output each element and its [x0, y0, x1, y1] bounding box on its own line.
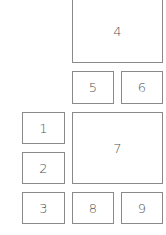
box-4: 4: [72, 0, 163, 63]
box-8: 8: [72, 192, 114, 224]
box-8-label: 8: [89, 201, 97, 216]
box-3-label: 3: [39, 201, 47, 216]
box-4-label: 4: [113, 24, 121, 39]
box-1: 1: [22, 112, 65, 144]
box-3: 3: [22, 192, 65, 224]
box-2-label: 2: [39, 161, 47, 176]
box-5-label: 5: [89, 80, 97, 95]
box-5: 5: [72, 71, 114, 104]
box-6: 6: [121, 71, 163, 104]
box-6-label: 6: [138, 80, 146, 95]
box-7-label: 7: [113, 141, 121, 156]
box-9: 9: [121, 192, 163, 224]
box-7: 7: [72, 112, 163, 184]
box-9-label: 9: [138, 201, 146, 216]
box-1-label: 1: [39, 121, 47, 136]
box-2: 2: [22, 152, 65, 184]
